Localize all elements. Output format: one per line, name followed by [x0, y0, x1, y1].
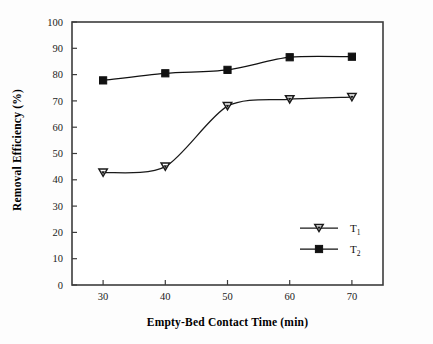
x-axis-tick-labels: 3040506070	[98, 291, 357, 302]
y-tick-label: 80	[53, 69, 64, 80]
y-axis-label-container: Removal Efficiency (%)	[2, 0, 32, 300]
plot-area	[72, 22, 383, 285]
y-tick-label: 50	[53, 148, 64, 159]
line-chart: 0102030405060708090100 3040506070 T1T2	[0, 0, 433, 344]
y-tick-label: 0	[58, 280, 63, 291]
y-tick-label: 90	[53, 43, 64, 54]
data-point-marker-square	[100, 77, 107, 84]
x-tick-label: 30	[98, 291, 109, 302]
x-axis-label-container: Empty-Bed Contact Time (min)	[72, 312, 383, 330]
y-tick-label: 60	[53, 122, 64, 133]
x-tick-label: 60	[284, 291, 295, 302]
y-axis-label: Removal Efficiency (%)	[11, 89, 23, 211]
y-tick-label: 100	[47, 17, 63, 28]
chart-figure: 0102030405060708090100 3040506070 T1T2 R…	[0, 0, 433, 344]
x-tick-label: 50	[222, 291, 233, 302]
y-axis-tick-labels: 0102030405060708090100	[47, 17, 63, 291]
x-tick-label: 40	[160, 291, 171, 302]
data-point-marker-square	[286, 54, 293, 61]
data-point-marker-square	[224, 66, 231, 73]
data-point-marker-square	[315, 245, 322, 252]
data-point-marker-square	[348, 53, 355, 60]
x-axis-label: Empty-Bed Contact Time (min)	[147, 316, 308, 328]
x-tick-label: 70	[347, 291, 358, 302]
y-tick-label: 30	[53, 201, 64, 212]
y-tick-label: 40	[53, 174, 64, 185]
y-tick-label: 20	[53, 227, 64, 238]
y-tick-label: 10	[53, 253, 64, 264]
data-point-marker-square	[162, 70, 169, 77]
y-tick-label: 70	[53, 96, 64, 107]
